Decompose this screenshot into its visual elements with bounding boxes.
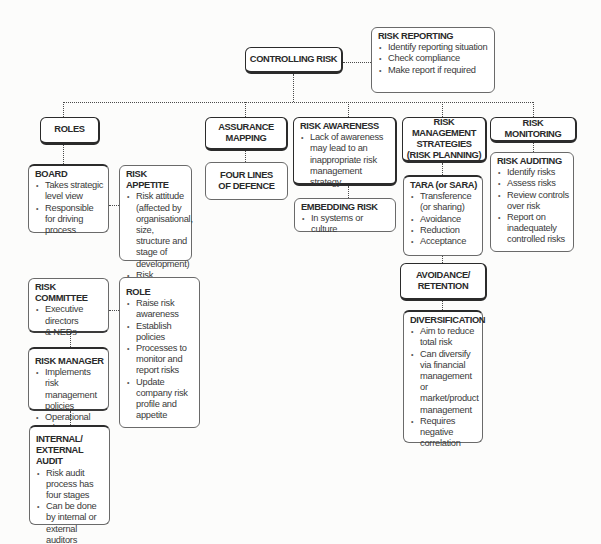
node-risk-appetite: RISK APPETITE Risk attitude (affected by… [119, 165, 192, 261]
connector-board-appetite [109, 205, 119, 206]
bullet-list: Identify risks Assess risks Review contr… [497, 167, 569, 245]
connector-rms-tara [442, 163, 443, 175]
bullet-item: Review controls over risk [507, 190, 569, 212]
node-four-lines-of-defence: FOUR LINES OF DEFENCE [205, 162, 288, 200]
bullet-item: Can diversify via financial management o… [420, 349, 478, 416]
bullet-item: Can be done by internal or external audi… [46, 501, 105, 544]
bullet-item: Aim to reduce total risk [420, 326, 478, 348]
bullet-item: Identify reporting situation [388, 42, 490, 53]
node-title-line: EXTERNAL AUDIT [36, 445, 105, 467]
bullet-item: Lack of awareness may lead to an inappro… [310, 132, 391, 188]
bullet-item: Update company risk profile and appetite [136, 377, 195, 422]
connector-root-down [293, 74, 294, 102]
node-title: RISK AWARENESS [300, 121, 379, 132]
node-title: TARA (or SARA) [410, 180, 478, 191]
node-title: ROLE [126, 287, 195, 298]
connector-avoidance-diversification [442, 301, 443, 310]
bullet-list: Executive directors & NEDs [35, 304, 104, 338]
node-title: CONTROLLING RISK [250, 54, 337, 65]
bullet-item: Responsible for driving process [45, 203, 104, 237]
bullet-item: Acceptance [420, 236, 478, 247]
bullet-item: Raise risk awareness [136, 298, 195, 320]
node-title-line: RETENTION [418, 281, 469, 292]
node-title: RISK REPORTING [378, 31, 490, 42]
bullet-list: In systems or culture [301, 213, 391, 235]
node-title-line: STRATEGIES [416, 139, 471, 150]
bullet-item: Establish policies [136, 321, 195, 343]
node-title: RISK APPETITE [126, 169, 187, 191]
connector-root-reporting [343, 62, 371, 63]
bullet-item: Make report if required [388, 65, 490, 76]
connector-assurance [245, 102, 246, 117]
node-title-line: AVOIDANCE/ [416, 270, 470, 281]
node-title-line: ASSURANCE [218, 122, 274, 133]
bullet-item: Transference (or sharing) [420, 191, 478, 213]
node-risk-committee: RISK COMMITTEE Executive directors & NED… [28, 278, 109, 333]
node-controlling-risk: CONTROLLING RISK [245, 47, 343, 74]
node-risk-reporting: RISK REPORTING Identify reporting situat… [371, 27, 495, 93]
node-title: ROLES [54, 124, 84, 135]
node-title-line: MAPPING [226, 133, 267, 144]
bullet-item: Avoidance [420, 214, 478, 225]
bullet-item: In systems or culture [311, 213, 391, 235]
bullet-item: Implements risk management policies [45, 367, 104, 412]
bullet-list: Risk audit process has four stages Can b… [36, 468, 105, 544]
bullet-list: Raise risk awareness Establish policies … [126, 298, 195, 421]
bullet-item: Risk audit process has four stages [46, 468, 105, 502]
node-internal-external-audit: INTERNAL/ EXTERNAL AUDIT Risk audit proc… [29, 425, 110, 525]
node-title-line: FOUR LINES [220, 170, 273, 181]
bullet-item: Reduction [420, 225, 478, 236]
connector-assurance-fourlines [245, 151, 246, 162]
bullet-item: Takes strategic level view [45, 180, 104, 202]
node-title: RISK AUDITING [497, 156, 569, 167]
bullet-list: Aim to reduce total risk Can diversify v… [410, 326, 478, 449]
bullet-list: Identify reporting situation Check compl… [378, 42, 490, 76]
node-title: BOARD [35, 169, 104, 180]
node-risk-auditing: RISK AUDITING Identify risks Assess risk… [490, 152, 574, 252]
bullet-item: Assess risks [507, 178, 569, 189]
node-risk-awareness: RISK AWARENESS Lack of awareness may lea… [293, 117, 397, 186]
connector-monitoring-auditing [533, 143, 534, 152]
node-title: RISK COMMITTEE [35, 282, 104, 304]
node-title: EMBEDDING RISK [301, 202, 391, 213]
node-risk-manager: RISK MANAGER Implements risk management … [28, 347, 109, 411]
connector-committee-role [109, 310, 119, 311]
node-assurance-mapping: ASSURANCE MAPPING [205, 117, 288, 151]
node-title-line: RISK MANAGEMENT [406, 117, 482, 139]
node-embedding-risk: EMBEDDING RISK In systems or culture [294, 198, 396, 232]
node-risk-monitoring: RISK MONITORING [490, 117, 577, 143]
connector-tara-avoidance [442, 256, 443, 263]
bullet-item: Processes to monitor and report risks [136, 343, 195, 377]
bullet-list: Transference (or sharing) Avoidance Redu… [410, 191, 478, 247]
node-title-line: (RISK PLANNING) [407, 150, 481, 161]
node-title-line: OF DEFENCE [218, 181, 274, 192]
node-title: RISK MANAGER [35, 356, 104, 367]
bullet-item: Check compliance [388, 53, 490, 64]
bullet-item: Requires negative correlation [420, 416, 478, 450]
node-roles: ROLES [40, 117, 100, 145]
node-title: DIVERSIFICATION [410, 315, 478, 326]
node-tara: TARA (or SARA) Transference (or sharing)… [403, 175, 483, 256]
node-role: ROLE Raise risk awareness Establish poli… [119, 277, 200, 428]
connector-roles [63, 102, 64, 117]
connector-rms [442, 102, 443, 117]
connector-main-horizontal [63, 102, 533, 103]
bullet-item: Risk attitude (affected by organisationa… [136, 191, 187, 269]
bullet-item: Report on inadequately controlled risks [507, 212, 569, 246]
bullet-item: Executive directors & NEDs [45, 304, 104, 338]
node-avoidance-retention: AVOIDANCE/ RETENTION [400, 263, 487, 301]
connector-monitoring [533, 102, 534, 117]
node-diversification: DIVERSIFICATION Aim to reduce total risk… [403, 310, 483, 443]
node-risk-management-strategies: RISK MANAGEMENT STRATEGIES (RISK PLANNIN… [402, 117, 487, 163]
node-board: BOARD Takes strategic level view Respons… [28, 164, 109, 233]
bullet-list: Lack of awareness may lead to an inappro… [300, 132, 391, 188]
bullet-list: Takes strategic level view Responsible f… [35, 180, 104, 236]
node-title: RISK MONITORING [494, 118, 572, 140]
connector-awareness [348, 102, 349, 117]
node-title-line: INTERNAL/ [36, 434, 105, 445]
connector-roles-board [63, 145, 64, 164]
bullet-item: Identify risks [507, 167, 569, 178]
